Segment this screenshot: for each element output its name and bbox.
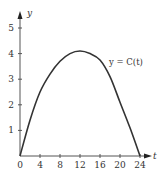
ticks: 0481216202412345 bbox=[8, 23, 146, 170]
y-tick-label: 5 bbox=[8, 23, 14, 33]
y-tick-label: 1 bbox=[8, 125, 14, 135]
y-axis-label: y bbox=[26, 8, 33, 18]
x-axis-arrow-icon bbox=[144, 154, 152, 159]
y-tick-label: 2 bbox=[8, 100, 14, 110]
chart-canvas: 0481216202412345 t y y = C(t) bbox=[0, 0, 165, 184]
x-tick-label: 20 bbox=[114, 160, 126, 170]
axes bbox=[18, 11, 153, 159]
y-axis-arrow-icon bbox=[18, 11, 23, 19]
x-tick-label: 0 bbox=[17, 160, 23, 170]
x-tick-label: 4 bbox=[37, 160, 43, 170]
y-tick-label: 3 bbox=[8, 74, 14, 84]
x-tick-label: 8 bbox=[57, 160, 63, 170]
x-tick-label: 16 bbox=[94, 160, 106, 170]
x-tick-label: 12 bbox=[74, 160, 85, 170]
curve-label: y = C(t) bbox=[108, 57, 143, 67]
x-tick-label: 24 bbox=[134, 160, 146, 170]
y-tick-label: 4 bbox=[8, 49, 14, 59]
x-axis-label: t bbox=[153, 151, 157, 161]
